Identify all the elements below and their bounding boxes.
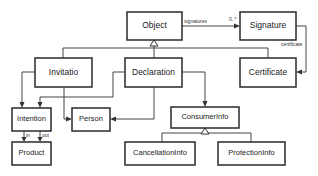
class-name: ConsumerInfo [181, 112, 228, 121]
class-certificate[interactable]: Certificate [240, 58, 296, 87]
class-cancellationinfo[interactable]: CancellationInfo [125, 142, 195, 165]
association-intention-product: in out [22, 131, 50, 142]
class-consumerinfo[interactable]: ConsumerInfo [171, 107, 239, 128]
association-declaration-consumerinfo [182, 72, 208, 107]
class-signature[interactable]: Signature [240, 12, 296, 40]
generalization-triangle-icon [150, 40, 158, 46]
class-name: Invitatio [49, 67, 79, 77]
class-object[interactable]: Object [127, 12, 182, 40]
arrowhead-icon [20, 102, 25, 108]
association-signatures: signatures 0..* [182, 16, 240, 29]
class-name: ProtectionInfo [228, 148, 274, 157]
arrowhead-icon [203, 101, 208, 107]
generalization-to-consumerinfo [162, 128, 251, 142]
class-person[interactable]: Person [72, 108, 110, 131]
class-name: Person [79, 114, 103, 123]
generalization-triangle-icon [201, 128, 209, 134]
arrowhead-icon [110, 117, 116, 122]
arrowhead-icon [38, 102, 43, 108]
class-invitatio[interactable]: Invitatio [35, 58, 92, 87]
class-name: Object [142, 20, 167, 30]
association-invitatio-intention [20, 72, 36, 108]
arrowhead-icon [296, 70, 302, 75]
class-name: Intention [17, 114, 46, 123]
class-name: Product [19, 148, 46, 157]
uml-diagram: signatures 0..* certificate in out [0, 0, 318, 176]
out-label: out [42, 132, 50, 138]
association-invitatio-person [64, 87, 72, 122]
class-declaration[interactable]: Declaration [125, 58, 182, 87]
signatures-label: signatures [184, 18, 208, 24]
class-product[interactable]: Product [12, 142, 51, 165]
class-name: Certificate [249, 67, 288, 77]
association-declaration-person [110, 87, 154, 122]
arrowhead-icon [66, 117, 72, 122]
class-name: CancellationInfo [133, 148, 187, 157]
in-label: in [26, 132, 30, 138]
class-name: Declaration [132, 67, 175, 77]
class-name: Signature [250, 20, 287, 30]
class-protectioninfo[interactable]: ProtectionInfo [218, 142, 285, 165]
generalization-to-object [63, 40, 268, 58]
multiplicity-label: 0..* [229, 16, 237, 22]
class-intention[interactable]: Intention [12, 108, 51, 131]
certificate-role-label: certificate [281, 41, 303, 47]
arrowhead-icon [234, 24, 240, 29]
